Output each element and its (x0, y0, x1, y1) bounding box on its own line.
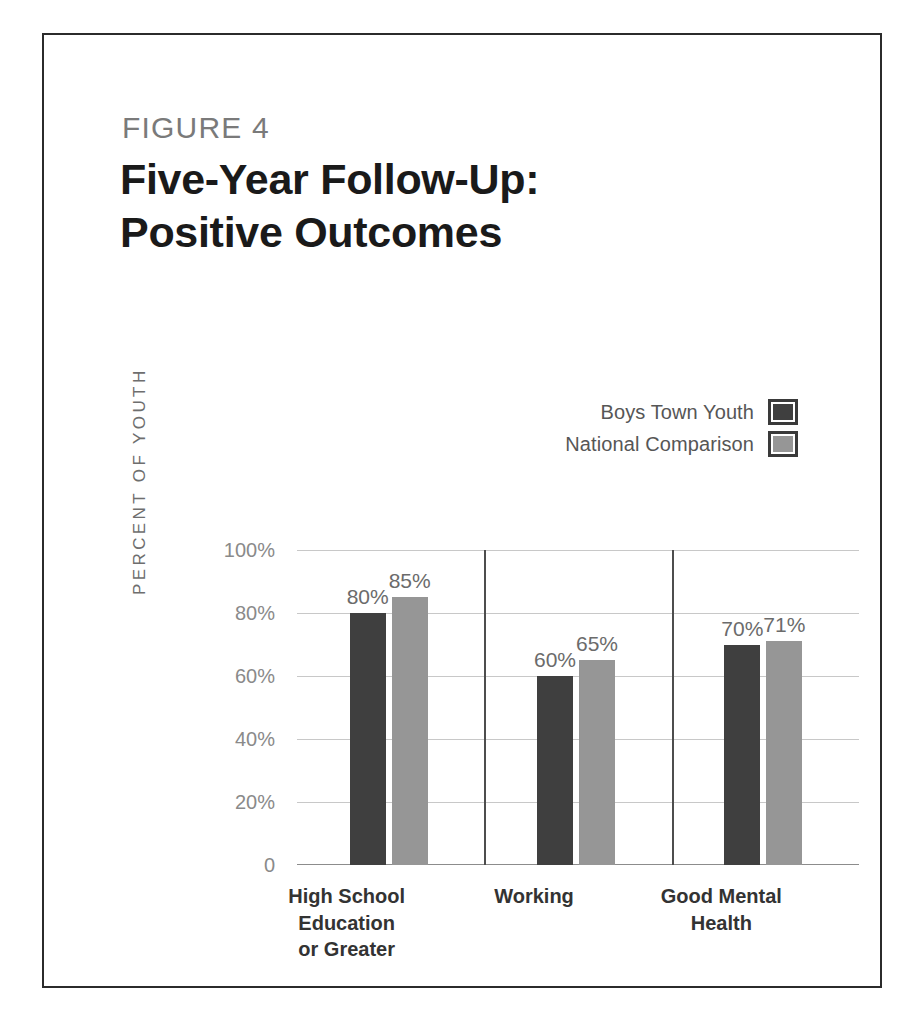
x-axis-category-label: High School Education or Greater (288, 883, 405, 963)
y-axis-tick-label: 40% (195, 728, 275, 751)
bar-value-label: 85% (389, 569, 431, 593)
legend-item-label: National Comparison (565, 433, 754, 456)
gridline (297, 550, 859, 551)
y-axis-tick-label: 60% (195, 665, 275, 688)
group-separator (672, 550, 674, 865)
group-separator (484, 550, 486, 865)
figure-label: FIGURE 4 (122, 111, 270, 145)
bar: 80% (350, 613, 386, 865)
bar: 65% (579, 660, 615, 865)
bar-value-label: 65% (576, 632, 618, 656)
x-axis-category-label: Working (494, 883, 574, 910)
bar-value-label: 60% (534, 648, 576, 672)
y-axis-title: PERCENT OF YOUTH (130, 305, 150, 595)
figure-title-line-2: Positive Outcomes (120, 206, 539, 259)
x-axis-category-label: Good Mental Health (661, 883, 782, 936)
bar: 71% (766, 641, 802, 865)
y-axis-tick-label: 100% (195, 539, 275, 562)
bar: 60% (537, 676, 573, 865)
y-axis-tick-label: 0 (195, 854, 275, 877)
bar-value-label: 71% (763, 613, 805, 637)
legend-color-swatch (768, 399, 798, 425)
bar-value-label: 80% (347, 585, 389, 609)
legend-item-label: Boys Town Youth (601, 401, 754, 424)
plot-area: 100%80%60%40%20%080%85%60%65%70%71% (297, 550, 859, 865)
y-axis-tick-label: 20% (195, 791, 275, 814)
figure-title-line-1: Five-Year Follow-Up: (120, 153, 539, 206)
y-axis-tick-label: 80% (195, 602, 275, 625)
legend-color-swatch (768, 431, 798, 457)
figure-frame: FIGURE 4 Five-Year Follow-Up: Positive O… (42, 33, 882, 988)
legend-item: National Comparison (565, 431, 798, 457)
legend-item: Boys Town Youth (565, 399, 798, 425)
page-title: Five-Year Follow-Up: Positive Outcomes (120, 153, 539, 259)
bar: 85% (392, 597, 428, 865)
chart-legend: Boys Town YouthNational Comparison (565, 399, 798, 457)
bar: 70% (724, 645, 760, 866)
bar-value-label: 70% (721, 617, 763, 641)
